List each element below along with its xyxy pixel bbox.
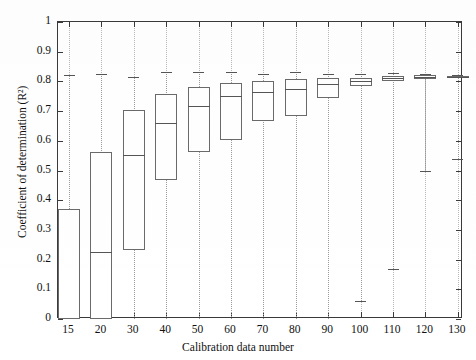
y-axis-tick-label: 0 xyxy=(5,312,51,324)
whisker-cap-upper xyxy=(290,72,301,73)
median-line xyxy=(382,78,404,79)
y-axis-tick-label: 0.8 xyxy=(5,74,51,86)
whisker-line xyxy=(458,75,459,159)
whisker-cap-upper xyxy=(388,73,399,74)
median-line xyxy=(317,84,339,85)
median-line xyxy=(90,252,112,253)
box-iqr xyxy=(317,78,339,98)
median-line xyxy=(414,77,436,78)
median-line xyxy=(188,106,210,107)
box-iqr xyxy=(252,81,274,120)
whisker-cap-upper xyxy=(226,72,237,73)
boxplot-130 xyxy=(447,22,469,317)
whisker-cap-upper xyxy=(193,72,204,73)
y-axis-tick-label: 0.9 xyxy=(5,45,51,57)
median-line xyxy=(220,96,242,97)
boxplot-60 xyxy=(220,22,242,317)
box-iqr xyxy=(58,209,80,319)
boxplot-100 xyxy=(350,22,372,317)
whisker-cap-upper xyxy=(64,75,75,76)
boxplot-30 xyxy=(123,22,145,317)
box-iqr xyxy=(188,87,210,152)
whisker-cap-upper xyxy=(323,74,334,75)
y-axis-tick-label: 0.5 xyxy=(5,164,51,176)
box-iqr xyxy=(123,110,145,250)
x-axis-title: Calibration data number xyxy=(0,341,476,353)
boxplot-120 xyxy=(414,22,436,317)
whisker-line xyxy=(328,74,329,319)
box-iqr xyxy=(155,94,177,180)
y-axis-tick-label: 1 xyxy=(5,15,51,27)
whisker-cap-upper xyxy=(161,72,172,73)
median-line xyxy=(285,89,307,90)
x-axis-tick-label: 130 xyxy=(437,324,476,336)
boxplot-20 xyxy=(90,22,112,317)
median-line xyxy=(155,123,177,124)
whisker-line xyxy=(425,74,426,171)
chart-figure: Coefficient of determination (R²) Calibr… xyxy=(0,0,476,360)
y-axis-tick-label: 0.6 xyxy=(5,134,51,146)
whisker-cap-lower xyxy=(355,301,366,302)
median-line xyxy=(447,77,469,78)
boxplot-80 xyxy=(285,22,307,317)
median-line xyxy=(252,92,274,93)
y-axis-tick-label: 0.1 xyxy=(5,282,51,294)
whisker-cap-lower xyxy=(420,171,431,172)
whisker-cap-lower xyxy=(452,159,463,160)
box-iqr xyxy=(220,83,242,140)
plot-area xyxy=(57,21,462,318)
boxplot-15 xyxy=(58,22,80,317)
y-axis-tick-right xyxy=(456,319,461,320)
boxplot-50 xyxy=(188,22,210,317)
whisker-line xyxy=(361,74,362,301)
box-iqr xyxy=(90,152,112,319)
median-line xyxy=(350,81,372,82)
whisker-cap-upper xyxy=(258,74,269,75)
y-axis-tick-label: 0.2 xyxy=(5,253,51,265)
whisker-cap-upper xyxy=(355,74,366,75)
whisker-cap-upper xyxy=(128,77,139,78)
y-axis-tick-label: 0.4 xyxy=(5,193,51,205)
boxplot-40 xyxy=(155,22,177,317)
boxplot-110 xyxy=(382,22,404,317)
whisker-cap-upper xyxy=(96,74,107,75)
boxplot-90 xyxy=(317,22,339,317)
box-iqr xyxy=(285,79,307,116)
whisker-line xyxy=(393,73,394,268)
whisker-cap-lower xyxy=(388,269,399,270)
y-axis-tick xyxy=(58,319,63,320)
y-axis-tick-label: 0.7 xyxy=(5,104,51,116)
median-line xyxy=(123,155,145,156)
y-axis-tick-label: 0.3 xyxy=(5,223,51,235)
boxplot-70 xyxy=(252,22,274,317)
